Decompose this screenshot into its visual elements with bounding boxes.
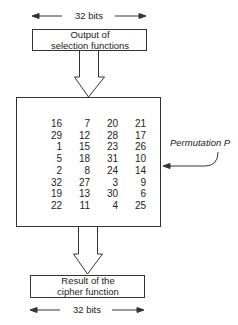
table-cell: 21	[118, 118, 146, 130]
table-cell: 5	[34, 153, 62, 165]
bottom-width-label: 32 bits	[62, 304, 112, 315]
table-cell: 27	[62, 177, 90, 189]
table-row: 22 11 4 25	[34, 200, 146, 212]
table-cell: 18	[62, 153, 90, 165]
table-cell: 26	[118, 141, 146, 153]
table-cell: 2	[34, 165, 62, 177]
table-row: 32 27 3 9	[34, 177, 146, 189]
table-cell: 29	[34, 130, 62, 142]
table-cell: 8	[62, 165, 90, 177]
table-row: 5 18 31 10	[34, 153, 146, 165]
table-cell: 12	[62, 130, 90, 142]
top-width-label: 32 bits	[64, 10, 114, 21]
down-arrow-bottom	[74, 227, 103, 275]
table-cell: 20	[90, 118, 118, 130]
table-cell: 24	[90, 165, 118, 177]
table-cell: 31	[90, 153, 118, 165]
table-cell: 14	[118, 165, 146, 177]
table-row: 1 15 23 26	[34, 141, 146, 153]
table-row: 16 7 20 21	[34, 118, 146, 130]
table-cell: 3	[90, 177, 118, 189]
result-box-line1: Result of the	[31, 275, 145, 286]
output-box-line1: Output of	[33, 29, 147, 40]
table-cell: 13	[62, 188, 90, 200]
table-cell: 10	[118, 153, 146, 165]
table-cell: 4	[90, 200, 118, 212]
permutation-label: Permutation P	[170, 137, 230, 148]
down-arrow-top	[75, 51, 105, 98]
table-row: 29 12 28 17	[34, 130, 146, 142]
callout-arrow	[163, 152, 218, 169]
output-box-text: Output of selection functions	[33, 29, 147, 51]
result-box-line2: cipher function	[31, 286, 145, 297]
table-cell: 19	[34, 188, 62, 200]
table-cell: 32	[34, 177, 62, 189]
table-cell: 6	[118, 188, 146, 200]
table-cell: 7	[62, 118, 90, 130]
table-row: 2 8 24 14	[34, 165, 146, 177]
table-cell: 28	[90, 130, 118, 142]
table-cell: 9	[118, 177, 146, 189]
permutation-table: 16 7 20 21 29 12 28 17 1 15 23 26 5 18 3…	[34, 118, 146, 212]
table-cell: 30	[90, 188, 118, 200]
table-cell: 15	[62, 141, 90, 153]
table-cell: 17	[118, 130, 146, 142]
table-cell: 16	[34, 118, 62, 130]
table-cell: 23	[90, 141, 118, 153]
table-cell: 1	[34, 141, 62, 153]
table-cell: 11	[62, 200, 90, 212]
table-cell: 25	[118, 200, 146, 212]
result-box-text: Result of the cipher function	[31, 275, 145, 297]
table-row: 19 13 30 6	[34, 188, 146, 200]
table-cell: 22	[34, 200, 62, 212]
output-box-line2: selection functions	[33, 40, 147, 51]
